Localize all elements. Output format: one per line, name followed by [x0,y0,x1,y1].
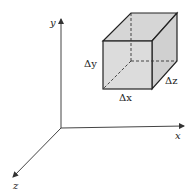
z-axis-label: z [12,180,19,191]
y-axis-label: y [49,17,56,28]
x-axis [61,126,184,128]
delta-y-label: Δy [84,58,97,69]
delta-z-label: Δz [165,75,178,86]
z-axis [13,128,61,177]
diagram-canvas: y x z Δy Δx Δz [0,0,192,195]
x-axis-label: x [175,130,181,141]
delta-x-label: Δx [119,92,132,103]
